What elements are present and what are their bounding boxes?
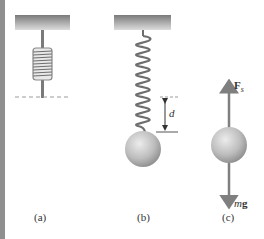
- spring-force-label: Fs: [234, 79, 244, 94]
- force-symbol-F: F: [234, 79, 241, 91]
- panel-label-a: (a): [34, 211, 46, 223]
- spring-mass-diagram: [0, 0, 264, 239]
- compressed-spring-a: [33, 48, 52, 80]
- ceiling-a: [15, 15, 70, 30]
- panel-c: [211, 86, 247, 202]
- mass-symbol-m: m: [234, 197, 242, 209]
- ceiling-b: [114, 15, 171, 30]
- force-subscript-s: s: [241, 85, 244, 94]
- stretched-spring-b: [136, 36, 150, 133]
- panel-b: [114, 15, 178, 167]
- panel-label-c: (c): [222, 211, 234, 223]
- panel-label-b: (b): [137, 211, 150, 223]
- gravity-symbol-g: g: [242, 197, 248, 209]
- ball-b: [125, 131, 161, 167]
- panel-a: [15, 15, 70, 98]
- ball-c: [211, 127, 247, 163]
- displacement-label-d: d: [169, 107, 175, 119]
- gravity-force-label: mg: [234, 197, 247, 209]
